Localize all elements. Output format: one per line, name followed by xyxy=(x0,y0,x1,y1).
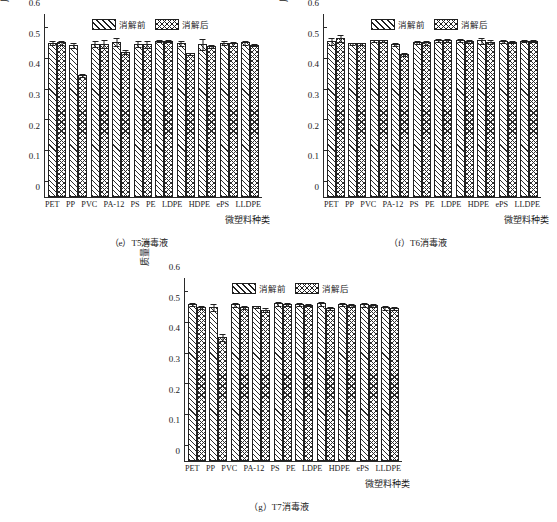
error-bar xyxy=(211,45,212,49)
x-axis-label: PE xyxy=(146,200,156,214)
bar-group xyxy=(209,278,227,461)
error-bar xyxy=(438,39,439,42)
bar-group xyxy=(241,14,259,197)
error-bar xyxy=(222,334,223,343)
bar-pre xyxy=(520,41,529,197)
x-axis-label: PVC xyxy=(360,200,376,214)
x-axis-label: PP xyxy=(66,200,75,214)
bar-group xyxy=(370,14,388,197)
error-bar xyxy=(116,38,117,47)
x-axis-label: HDPE xyxy=(468,200,489,214)
error-bar xyxy=(168,40,169,43)
bar-post xyxy=(336,38,345,197)
y-axis-tick: 0.1 xyxy=(308,151,324,161)
bar-pre xyxy=(391,44,400,197)
y-axis-tick: 0.1 xyxy=(29,151,45,161)
bar-pre xyxy=(348,43,357,197)
error-bar xyxy=(104,40,105,49)
x-axis-label: ePS xyxy=(495,200,508,214)
x-axis-label: LLDPE xyxy=(235,200,260,214)
legend-swatch-pre xyxy=(92,19,116,30)
bar-post xyxy=(143,44,152,197)
x-axis-label: PVC xyxy=(221,464,237,478)
bar-pre xyxy=(338,304,347,461)
error-bar xyxy=(244,306,245,310)
x-axis-label: PA-12 xyxy=(244,464,265,478)
error-bar xyxy=(61,41,62,46)
error-bar xyxy=(533,40,534,43)
error-bar xyxy=(138,41,139,48)
bar-post xyxy=(121,52,130,197)
y-axis-tick: 0 xyxy=(176,446,186,456)
y-axis-tick: 0.5 xyxy=(169,293,185,303)
bar-pre xyxy=(177,43,186,197)
x-axis-label: ePS xyxy=(356,464,369,478)
bar-group xyxy=(198,14,216,197)
bar-groups xyxy=(324,14,541,197)
error-bar xyxy=(265,308,266,313)
error-bar xyxy=(224,41,225,46)
bar-group xyxy=(91,14,109,197)
error-bar xyxy=(361,43,362,46)
error-bar xyxy=(512,41,513,44)
bar-post xyxy=(186,53,195,197)
error-bar xyxy=(395,43,396,47)
error-bar xyxy=(352,43,353,46)
legend-swatch-pre xyxy=(371,19,395,30)
bar-pre xyxy=(499,41,508,197)
y-axis-tick: 0.3 xyxy=(29,90,45,100)
x-axis-labels: PETPPPVCPA-12PSPELDPEHDPEePSLLDPE xyxy=(323,200,541,214)
bar-pre xyxy=(252,306,261,461)
bar-group xyxy=(477,14,495,197)
bar-pre xyxy=(370,40,379,197)
bar-post xyxy=(486,42,495,197)
error-bar xyxy=(190,53,191,56)
bar-group xyxy=(155,14,173,197)
error-bar xyxy=(351,304,352,308)
error-bar xyxy=(330,307,331,310)
bar-pre xyxy=(188,304,197,461)
error-bar xyxy=(82,74,83,78)
legend-item-post: 消解后 xyxy=(155,18,209,30)
y-axis-title: 质量/g xyxy=(138,218,151,288)
error-bar xyxy=(426,41,427,46)
bar-post xyxy=(250,45,259,197)
error-bar xyxy=(385,306,386,310)
y-axis-tick: 0.4 xyxy=(308,59,324,69)
x-axis-label: PA-12 xyxy=(104,200,125,214)
bar-post xyxy=(369,305,378,461)
bar-group xyxy=(499,14,517,197)
error-bar xyxy=(235,303,236,308)
error-bar xyxy=(383,40,384,43)
error-bar xyxy=(202,39,203,50)
bar-post xyxy=(229,43,238,197)
bar-group xyxy=(48,14,66,197)
y-axis-tick: 0 xyxy=(315,182,325,192)
error-bar xyxy=(460,39,461,43)
y-axis-tick: 0.4 xyxy=(29,59,45,69)
bar-pre xyxy=(209,307,218,461)
bar-group xyxy=(112,14,130,197)
legend-label-post: 消解后 xyxy=(461,18,488,30)
legend-swatch-post xyxy=(295,283,319,294)
y-axis-tick: 0.5 xyxy=(29,29,45,39)
error-bar xyxy=(233,42,234,47)
bar-group xyxy=(456,14,474,197)
bar-group xyxy=(188,278,206,461)
error-bar xyxy=(52,41,53,46)
error-bar xyxy=(447,39,448,43)
x-axis-title: 微塑料种类 xyxy=(225,213,270,226)
bar-post xyxy=(283,304,292,461)
bar-post xyxy=(164,41,173,197)
bar-post xyxy=(508,42,517,197)
error-bar xyxy=(340,35,341,42)
error-bar xyxy=(503,40,504,44)
bar-pre xyxy=(477,40,486,197)
error-bar xyxy=(524,40,525,44)
bar-pre xyxy=(155,41,164,197)
error-bar xyxy=(159,40,160,43)
y-axis-tick: 0.2 xyxy=(29,121,45,131)
bar-post xyxy=(465,41,474,197)
bar-group xyxy=(381,278,399,461)
bar-pre xyxy=(198,44,207,197)
